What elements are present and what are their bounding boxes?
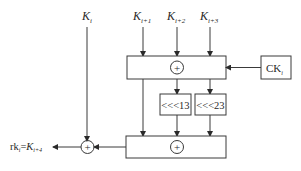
ck-label: CKi	[266, 62, 283, 76]
input-label-k-i2: Ki+2	[166, 9, 186, 25]
input-label-k-i1: Ki+1	[132, 9, 151, 25]
input-label-k-i3: Ki+3	[199, 9, 219, 25]
top-xor-symbol: +	[174, 62, 180, 74]
bottom-xor-symbol: +	[174, 141, 180, 153]
output-xor-symbol: +	[84, 141, 90, 153]
rotate-13-label: <<<13	[161, 100, 189, 111]
key-schedule-diagram: Ki Ki+1 Ki+2 Ki+3 + CKi <<<13 <<<23 + +	[0, 0, 301, 171]
output-label: rki=Ki+4	[10, 141, 42, 153]
input-label-k-i: Ki	[81, 9, 92, 25]
rotate-23-label: <<<23	[196, 100, 224, 111]
